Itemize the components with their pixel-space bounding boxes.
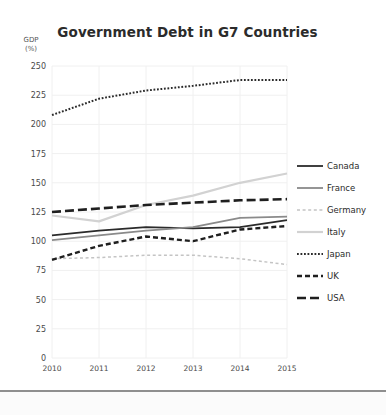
y-tick-label: 25 xyxy=(12,324,46,333)
plot-area xyxy=(52,66,287,358)
y-tick-label: 250 xyxy=(12,62,46,71)
plot-svg xyxy=(52,66,287,358)
legend-item-uk[interactable]: UK xyxy=(297,265,383,287)
legend-swatch-japan xyxy=(297,249,323,259)
legend-swatch-canada xyxy=(297,161,323,171)
data-series-line-italy xyxy=(52,173,287,221)
x-tick-label: 2011 xyxy=(79,364,119,373)
legend-item-canada[interactable]: Canada xyxy=(297,155,383,177)
legend-label: UK xyxy=(327,271,339,281)
bottom-strip xyxy=(0,392,386,415)
x-tick-label: 2010 xyxy=(32,364,72,373)
chart-legend: CanadaFranceGermanyItalyJapanUKUSA xyxy=(297,155,383,309)
x-tick-label: 2015 xyxy=(267,364,307,373)
legend-label: France xyxy=(327,183,355,193)
y-tick-label: 125 xyxy=(12,208,46,217)
legend-item-japan[interactable]: Japan xyxy=(297,243,383,265)
y-tick-label: 175 xyxy=(12,149,46,158)
legend-label: Japan xyxy=(327,249,351,259)
legend-swatch-germany xyxy=(297,205,323,215)
legend-item-germany[interactable]: Germany xyxy=(297,199,383,221)
x-tick-label: 2012 xyxy=(126,364,166,373)
legend-label: USA xyxy=(327,293,345,303)
y-tick-label: 225 xyxy=(12,91,46,100)
grid-lines xyxy=(52,66,287,358)
y-axis-label-line1: GDP xyxy=(14,36,48,45)
y-tick-label: 200 xyxy=(12,120,46,129)
legend-swatch-france xyxy=(297,183,323,193)
legend-item-france[interactable]: France xyxy=(297,177,383,199)
chart-title: Government Debt in G7 Countries xyxy=(50,24,325,40)
x-tick-label: 2013 xyxy=(173,364,213,373)
data-series-line-japan xyxy=(52,80,287,115)
legend-label: Germany xyxy=(327,205,366,215)
y-tick-label: 0 xyxy=(12,354,46,363)
legend-item-usa[interactable]: USA xyxy=(297,287,383,309)
data-series-group xyxy=(52,80,287,265)
legend-item-italy[interactable]: Italy xyxy=(297,221,383,243)
y-axis-label-line2: (%) xyxy=(14,45,48,54)
legend-swatch-italy xyxy=(297,227,323,237)
legend-label: Canada xyxy=(327,161,359,171)
y-tick-label: 150 xyxy=(12,178,46,187)
y-tick-label: 100 xyxy=(12,237,46,246)
chart-figure: Government Debt in G7 Countries GDP (%) … xyxy=(0,0,386,390)
legend-label: Italy xyxy=(327,227,345,237)
x-tick-label: 2014 xyxy=(220,364,260,373)
legend-swatch-usa xyxy=(297,293,323,303)
y-tick-label: 75 xyxy=(12,266,46,275)
legend-swatch-uk xyxy=(297,271,323,281)
data-series-line-germany xyxy=(52,255,287,264)
y-axis-label: GDP (%) xyxy=(14,36,48,54)
y-tick-label: 50 xyxy=(12,295,46,304)
